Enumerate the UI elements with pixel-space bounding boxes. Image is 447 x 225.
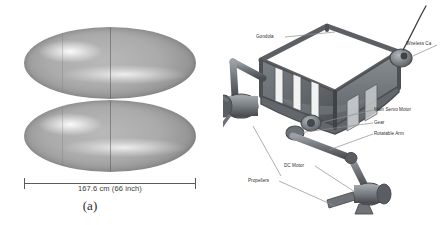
gondola-frame bbox=[261, 26, 399, 134]
subfigure-caption-a: (a) bbox=[60, 198, 120, 214]
leader-propellers-upper bbox=[253, 126, 281, 176]
wireless-camera bbox=[390, 6, 426, 67]
lower-hull-seam bbox=[110, 101, 111, 171]
upper-hull-seam bbox=[110, 28, 111, 98]
panel-a-blimp-envelope: 167.6 cm (66 inch) (a) bbox=[0, 0, 223, 225]
upper-hull-seam-left bbox=[62, 35, 63, 92]
leader-wireless-camera bbox=[413, 45, 437, 56]
label-wireless-camera: Wireless Ca bbox=[406, 41, 431, 46]
label-gear: Gear bbox=[374, 120, 384, 125]
leader-rotatable-arm bbox=[329, 134, 373, 150]
leader-dc-motor bbox=[315, 166, 355, 192]
leader-propellers bbox=[279, 181, 335, 206]
label-propellers: Propellers bbox=[248, 178, 269, 183]
lower-hull-seam-left bbox=[62, 108, 63, 165]
label-gondola: Gondola bbox=[256, 34, 274, 39]
label-dc-motor: DC Motor bbox=[284, 163, 304, 168]
label-main-servo-motor: Main Servo Motor bbox=[374, 107, 411, 112]
left-thruster-assembly bbox=[223, 62, 263, 156]
rotatable-arm-assembly bbox=[293, 136, 391, 214]
figure-root: 167.6 cm (66 inch) (a) bbox=[0, 0, 447, 225]
label-rotatable-arm: Rotatable Arm bbox=[374, 131, 404, 136]
dimension-label: 167.6 cm (66 inch) bbox=[24, 184, 196, 193]
panel-b-gondola-assembly: Gondola Wireless Ca Main Servo Motor Gea… bbox=[223, 0, 447, 225]
